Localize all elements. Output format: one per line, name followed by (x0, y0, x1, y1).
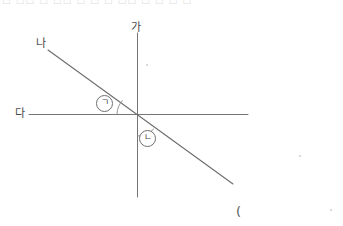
geometry-drawing (0, 0, 343, 226)
line-label-na: 나 (36, 38, 46, 49)
stray-paren-glyph: ( (236, 205, 241, 218)
scan-speck (299, 155, 301, 157)
angle-marker-nieun: ㄴ (139, 130, 156, 147)
angle-marker-giyeok: ㄱ (96, 95, 113, 112)
line-label-da: 다 (15, 108, 25, 119)
figure-canvas: □ □□ □ □□ □ □ □ □□ □ □ □ □ 가 나 다 ㄱ ㄴ ( (0, 0, 343, 226)
diagonal-line-na (48, 50, 233, 184)
line-label-ga: 가 (131, 22, 141, 33)
scan-speck (330, 209, 332, 211)
scan-speck (146, 64, 148, 66)
